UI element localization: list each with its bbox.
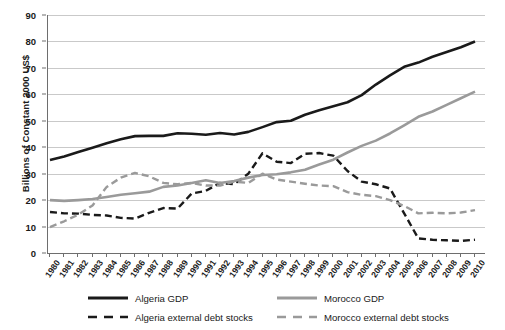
legend-label: Morocco external debt stocks xyxy=(324,312,449,323)
legend-swatch xyxy=(88,292,128,304)
series-line xyxy=(50,41,475,159)
x-tick-mark xyxy=(474,253,475,257)
y-tick-label: 0 xyxy=(31,248,36,259)
x-tick-mark xyxy=(361,253,362,257)
legend-swatch xyxy=(277,292,317,304)
legend-label: Algeria GDP xyxy=(135,293,188,304)
y-tick-mark xyxy=(42,226,46,227)
x-tick-label: 1988 xyxy=(156,258,175,279)
x-tick-mark xyxy=(92,253,93,257)
x-tick-mark xyxy=(446,253,447,257)
x-tick-mark xyxy=(205,253,206,257)
x-tick-mark xyxy=(233,253,234,257)
y-tick-label: 40 xyxy=(25,142,36,153)
x-tick-label: 1983 xyxy=(86,258,105,279)
y-tick-mark xyxy=(42,253,46,254)
legend-entry: Morocco GDP xyxy=(277,292,384,304)
y-tick-mark xyxy=(42,120,46,121)
x-tick-mark xyxy=(49,253,50,257)
x-tick-mark xyxy=(106,253,107,257)
plot-area xyxy=(47,15,485,254)
x-tick-mark xyxy=(460,253,461,257)
x-tick-mark xyxy=(120,253,121,257)
y-tick-label: 30 xyxy=(25,168,36,179)
x-tick-mark xyxy=(177,253,178,257)
x-tick-mark xyxy=(432,253,433,257)
legend-label: Algeria external debt stocks xyxy=(135,312,253,323)
x-tick-label: 1989 xyxy=(171,258,190,279)
legend-entry: Algeria GDP xyxy=(88,292,188,304)
chart-figure: Billions of Constant 2000 US$ 0102030405… xyxy=(0,0,505,330)
y-tick-label: 60 xyxy=(25,89,36,100)
y-tick-mark xyxy=(42,67,46,68)
x-tick-label: 1982 xyxy=(71,258,90,279)
x-tick-mark xyxy=(290,253,291,257)
legend-label: Morocco GDP xyxy=(324,293,384,304)
x-tick-mark xyxy=(375,253,376,257)
legend-entry: Morocco external debt stocks xyxy=(277,311,449,323)
x-tick-mark xyxy=(63,253,64,257)
x-tick-mark xyxy=(332,253,333,257)
x-tick-mark xyxy=(191,253,192,257)
y-tick-mark xyxy=(42,94,46,95)
x-tick-mark xyxy=(389,253,390,257)
y-tick-mark xyxy=(42,147,46,148)
legend-swatch xyxy=(277,311,317,323)
x-tick-label: 2000 xyxy=(326,258,345,279)
x-tick-label: 2007 xyxy=(426,258,445,279)
x-tick-mark xyxy=(148,253,149,257)
series-layer xyxy=(48,15,485,253)
x-tick-mark xyxy=(347,253,348,257)
y-axis-tick-labels: 0102030405060708090 xyxy=(0,15,42,253)
x-tick-mark xyxy=(219,253,220,257)
series-line xyxy=(50,92,475,201)
x-tick-mark xyxy=(304,253,305,257)
x-tick-label: 1994 xyxy=(241,258,260,279)
x-tick-label: 2006 xyxy=(411,258,430,279)
legend-swatch xyxy=(88,311,128,323)
x-tick-label: 1995 xyxy=(256,258,275,279)
x-tick-mark xyxy=(262,253,263,257)
y-tick-mark xyxy=(42,41,46,42)
legend-entry: Algeria external debt stocks xyxy=(88,311,253,323)
y-tick-label: 80 xyxy=(25,36,36,47)
y-tick-label: 90 xyxy=(25,10,36,21)
x-tick-mark xyxy=(162,253,163,257)
series-line xyxy=(50,173,475,227)
x-tick-mark xyxy=(77,253,78,257)
y-tick-label: 10 xyxy=(25,221,36,232)
y-tick-mark xyxy=(42,200,46,201)
x-tick-label: 2001 xyxy=(341,258,360,279)
y-tick-label: 70 xyxy=(25,62,36,73)
y-tick-mark xyxy=(42,173,46,174)
y-tick-label: 20 xyxy=(25,195,36,206)
x-tick-mark xyxy=(318,253,319,257)
x-tick-mark xyxy=(134,253,135,257)
x-tick-mark xyxy=(276,253,277,257)
x-tick-mark xyxy=(417,253,418,257)
y-tick-label: 50 xyxy=(25,115,36,126)
x-axis-tick-labels: 1980198119821983198419851986198719881989… xyxy=(47,254,484,294)
y-tick-mark xyxy=(42,15,46,16)
x-tick-mark xyxy=(247,253,248,257)
x-tick-mark xyxy=(403,253,404,257)
chart-legend: Algeria GDPMorocco GDPAlgeria external d… xyxy=(0,292,505,330)
